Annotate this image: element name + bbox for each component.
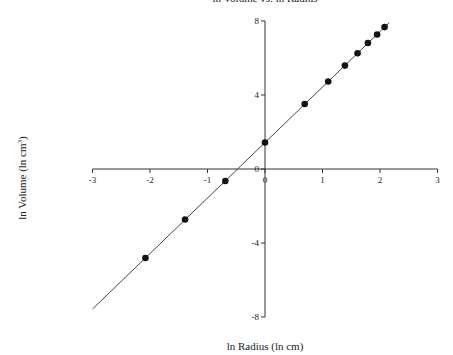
data-point [365,40,372,47]
y-tick-label: 0 [255,164,260,174]
data-point [142,255,149,262]
axes: -3-2-10123-8-4048 [89,16,441,322]
x-tick-label: 2 [378,175,383,185]
data-point [301,101,308,108]
chart: ln Volume vs. ln Radius -3-2-10123-8-404… [0,0,453,355]
y-tick-label: -4 [252,238,260,248]
data-point [262,139,269,146]
y-axis-title: ln Volume (ln cm3) [16,136,29,220]
chart-title: ln Volume vs. ln Radius [212,0,317,4]
data-point [182,216,189,223]
data-point [342,62,349,69]
x-tick-label: -2 [146,175,154,185]
x-tick-label: 1 [320,175,325,185]
data-point [381,24,388,31]
x-tick-label: -3 [89,175,97,185]
data-point [354,50,361,57]
data-point [222,178,229,185]
data-point [374,31,381,38]
chart-canvas: ln Volume vs. ln Radius -3-2-10123-8-404… [0,0,453,355]
x-tick-label: -1 [204,175,212,185]
y-tick-label: -8 [252,312,260,322]
x-axis-title: ln Radius (ln cm) [227,340,304,353]
data-point [325,78,332,85]
y-tick-label: 8 [255,16,260,26]
y-tick-label: 4 [255,90,260,100]
x-tick-label: 3 [435,175,440,185]
